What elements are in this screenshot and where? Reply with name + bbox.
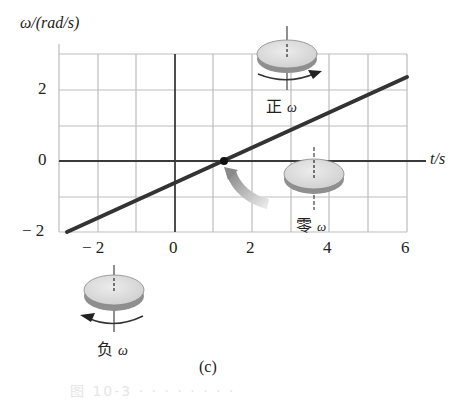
label-positive-omega: 正 ω	[266, 93, 297, 117]
y-tick-neg2: − 2	[22, 221, 44, 241]
y-tick-2: 2	[38, 79, 47, 99]
grid	[59, 54, 407, 232]
x-tick-4: 4	[323, 238, 332, 258]
y-tick-0: 0	[38, 150, 47, 170]
x-tick-2: 2	[246, 238, 255, 258]
y-axis-title: ω/(rad/s)	[20, 14, 79, 32]
zero-crossing-point	[220, 157, 228, 165]
disk-negative-omega-icon	[80, 265, 144, 332]
pointer-arrow-icon	[224, 167, 268, 204]
figure-caption: (c)	[199, 358, 217, 376]
faint-footer-text: 图 10-3 · · · · · · · ·	[70, 380, 235, 400]
x-axis-title: t/s	[430, 150, 445, 168]
label-zero-omega: 零 ω	[296, 212, 326, 236]
x-tick-neg2: − 2	[82, 238, 104, 258]
x-tick-6: 6	[401, 238, 410, 258]
label-negative-omega: 负 ω	[97, 336, 128, 360]
disk-positive-omega-icon	[257, 26, 322, 90]
y-axis-title-text: ω/(rad/s)	[20, 14, 79, 31]
x-tick-0: 0	[169, 238, 178, 258]
omega-line	[67, 77, 407, 232]
disk-zero-omega-icon	[284, 147, 344, 210]
